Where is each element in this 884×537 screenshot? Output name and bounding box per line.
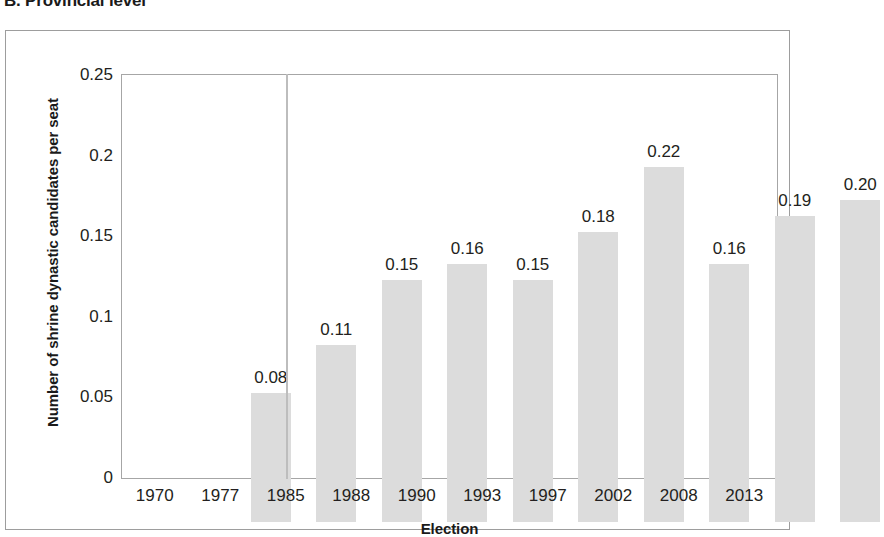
- bar-group: 0.20: [828, 119, 884, 522]
- x-axis-tick-label: 1977: [201, 486, 239, 506]
- figure-title: B. Provincial level: [4, 0, 146, 11]
- y-axis-tick-label: 0.1: [57, 307, 113, 327]
- bar-value-label: 0.18: [582, 207, 615, 227]
- bar-value-label: 0.16: [451, 239, 484, 259]
- bar[interactable]: [644, 167, 684, 522]
- bar-value-label: 0.19: [778, 191, 811, 211]
- bar-series: 0.080.110.150.160.150.180.220.160.190.20: [238, 119, 884, 522]
- bar-value-label: 0.15: [516, 255, 549, 275]
- bar-group: 0.18: [566, 119, 632, 522]
- y-axis-tick-label: 0: [57, 468, 113, 488]
- bar[interactable]: [578, 232, 618, 522]
- x-axis-tick-label: 1970: [136, 486, 174, 506]
- x-axis-tick-label: 2002: [594, 486, 632, 506]
- marker-vertical-line: [286, 74, 288, 479]
- bar-group: 0.19: [762, 119, 828, 522]
- y-axis-tick-labels: 0.250.20.150.10.050: [51, 74, 113, 479]
- x-axis-tick-label: 1997: [529, 486, 567, 506]
- bar[interactable]: [447, 264, 487, 522]
- y-axis-tick-label: 0.2: [57, 146, 113, 166]
- x-axis-tick-labels: 1970197719851988199019931997200220082013: [122, 486, 777, 514]
- bar-value-label: 0.22: [647, 142, 680, 162]
- y-axis-tick-label: 0.05: [57, 387, 113, 407]
- bar-group: 0.08: [238, 119, 304, 522]
- bar[interactable]: [840, 200, 880, 522]
- y-axis-tick-label: 0.25: [57, 65, 113, 85]
- bar-value-label: 0.15: [385, 255, 418, 275]
- bar-group: 0.22: [631, 119, 697, 522]
- bar[interactable]: [775, 216, 815, 522]
- bar-group: 0.16: [697, 119, 763, 522]
- x-axis-tick-label: 1990: [398, 486, 436, 506]
- bar-group: 0.11: [304, 119, 370, 522]
- bar-value-label: 0.16: [713, 239, 746, 259]
- bar-value-label: 0.08: [254, 368, 287, 388]
- x-axis-tick-label: 1985: [267, 486, 305, 506]
- x-axis-tick-label: 1993: [463, 486, 501, 506]
- bar-group: 0.16: [435, 119, 501, 522]
- plot-area: 0.080.110.150.160.150.180.220.160.190.20: [121, 74, 778, 479]
- x-axis-tick-label: 1988: [332, 486, 370, 506]
- x-axis-tick-label: 2013: [725, 486, 763, 506]
- y-axis-tick-label: 0.15: [57, 226, 113, 246]
- x-axis-tick-label: 2008: [660, 486, 698, 506]
- bar-value-label: 0.20: [844, 175, 877, 195]
- x-axis-title: Election: [121, 520, 778, 537]
- bar-value-label: 0.11: [320, 320, 352, 340]
- bar-group: 0.15: [369, 119, 435, 522]
- bar[interactable]: [709, 264, 749, 522]
- chart-frame: Number of shrine dynastic candidates per…: [5, 30, 790, 530]
- bar-group: 0.15: [500, 119, 566, 522]
